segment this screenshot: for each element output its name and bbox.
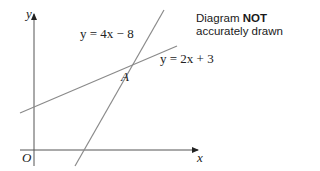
line-2x-plus-3 bbox=[20, 46, 177, 113]
line-label-2x-plus-3: y = 2x + 3 bbox=[160, 51, 214, 66]
x-axis-label: x bbox=[196, 150, 203, 165]
intersection-label: A bbox=[120, 69, 129, 84]
y-axis-label: y bbox=[24, 6, 32, 21]
origin-label: O bbox=[22, 150, 32, 165]
diagram-note: Diagram NOT accurately drawn bbox=[196, 12, 283, 38]
note-line2: accurately drawn bbox=[196, 25, 283, 38]
line-label-4x-minus-8: y = 4x − 8 bbox=[80, 26, 134, 41]
note-bold: NOT bbox=[243, 12, 267, 24]
note-prefix: Diagram bbox=[196, 12, 243, 24]
